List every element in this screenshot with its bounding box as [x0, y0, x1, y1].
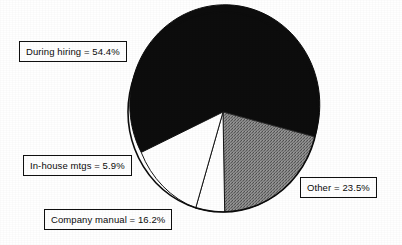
pie-label-other: Other = 23.5% [300, 177, 377, 198]
pie-label-in-house-mtgs: In-house mtgs = 5.9% [23, 155, 132, 176]
pie-chart-figure: During hiring = 54.4% In-house mtgs = 5.… [0, 0, 402, 245]
pie-label-during-hiring: During hiring = 54.4% [19, 41, 127, 62]
pie-label-company-manual: Company manual = 16.2% [44, 209, 172, 230]
